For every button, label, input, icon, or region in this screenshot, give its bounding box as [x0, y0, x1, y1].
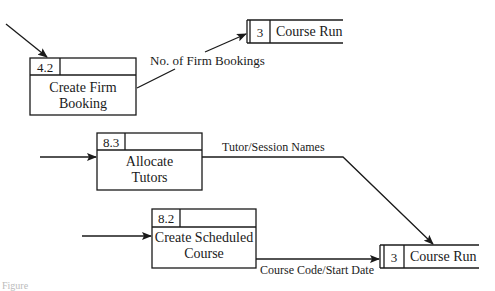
flow-to-store-top	[205, 34, 246, 52]
process-id-8-3: 8.3	[97, 136, 125, 149]
flow-label-firm-bookings: No. of Firm Bookings	[150, 54, 265, 67]
process-title-8-2: Create Scheduled Course	[152, 230, 256, 262]
process-title-line1: Create Firm	[30, 80, 136, 96]
store-id-top: 3	[250, 26, 270, 39]
process-title-line1: Allocate	[97, 154, 202, 170]
process-id-8-2: 8.2	[152, 212, 180, 225]
store-name-bottom: Course Run	[410, 250, 477, 264]
process-title-line2: Course	[152, 246, 256, 262]
figure-caption: Figure	[2, 280, 28, 291]
flow-label-tutor-session: Tutor/Session Names	[222, 141, 325, 153]
process-id-4-2: 4.2	[30, 61, 60, 74]
process-title-line2: Booking	[30, 96, 136, 112]
process-title-4-2: Create Firm Booking	[30, 80, 136, 112]
store-id-bottom: 3	[384, 251, 404, 264]
store-name-top: Course Run	[276, 25, 343, 39]
flow-4-2-out	[137, 69, 175, 88]
process-title-line1: Create Scheduled	[152, 230, 256, 246]
flow-into-4-2	[6, 24, 47, 57]
process-title-8-3: Allocate Tutors	[97, 154, 202, 186]
flow-label-course-code: Course Code/Start Date	[260, 264, 374, 276]
process-title-line2: Tutors	[97, 170, 202, 186]
